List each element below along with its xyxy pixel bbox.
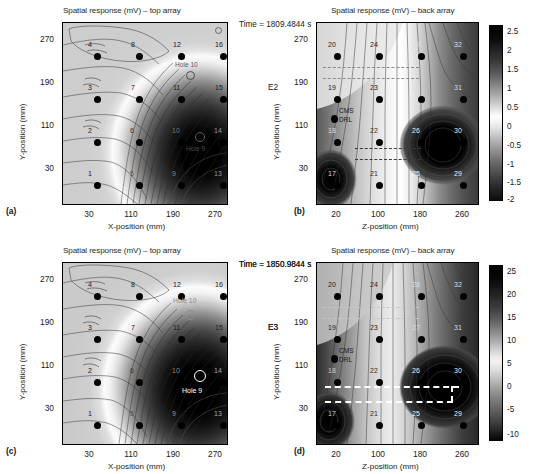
sensor-dot (376, 336, 383, 343)
panel-a-xaxis-label: X-position (mm) (108, 222, 165, 231)
hole-label: Hole 9 (186, 145, 205, 152)
sensor-dot (220, 336, 227, 343)
sensor-number: 31 (454, 84, 462, 91)
sensor-number: 30 (454, 127, 462, 134)
panel-d-letter: (d) (294, 446, 305, 456)
sensor-dot (220, 182, 227, 189)
panel-b-letter: (b) (294, 206, 305, 216)
dashed-marker-lower (355, 148, 421, 149)
sensor-number: 11 (173, 84, 180, 91)
sensor-number: 20 (328, 281, 336, 288)
sensor-number: 20 (328, 41, 336, 48)
sensor-dot (178, 379, 185, 386)
sensor-dot (334, 53, 341, 60)
sensor-dot (136, 293, 143, 300)
sensor-dot-extra (331, 355, 338, 363)
colorbar-d-tick: 20 (507, 290, 516, 299)
colorbar-b-tick: 2 (507, 46, 512, 55)
panel-d-event-label: E3 (268, 323, 278, 332)
sensor-dot (418, 182, 425, 189)
sensor-number: 19 (328, 84, 336, 91)
sensor-number: 18 (328, 127, 336, 134)
dashed-marker-white-top (325, 386, 459, 388)
sensor-dot (376, 139, 383, 146)
sensor-number: 14 (214, 127, 222, 134)
sensor-number: 14 (214, 367, 222, 374)
colorbar-b-tick: -2 (507, 195, 514, 204)
sensor-number: 29 (454, 170, 462, 177)
sensor-number: 17 (328, 410, 336, 417)
sensor-number: 6 (130, 127, 134, 134)
sensor-dot (418, 293, 425, 300)
hole-marker (186, 71, 195, 80)
panel-a-yaxis-label: Y-position (mm) (18, 104, 27, 160)
sensor-dot (418, 53, 425, 60)
sensor-number: 2 (88, 127, 92, 134)
sensor-number: 8 (131, 41, 135, 48)
sensor-dot (460, 182, 467, 189)
sensor-number: 13 (214, 410, 222, 417)
colorbar-b-tick: 2.5 (507, 27, 518, 36)
panel-c-xtick: 270 (204, 449, 226, 459)
panel-b-xtick: 100 (367, 209, 389, 219)
sensor-number: 18 (328, 367, 336, 374)
sensor-dot (460, 379, 467, 386)
sensor-number: 3 (88, 84, 92, 91)
sensor-number: 24 (370, 41, 378, 48)
sensor-number: 11 (173, 324, 180, 331)
colorbar-d-tick: -10 (507, 430, 519, 439)
sensor-dot (418, 336, 425, 343)
panel-a-ytick: 190 (22, 77, 54, 87)
sensor-number: 23 (370, 84, 378, 91)
sensor-number: 32 (454, 281, 462, 288)
sensor-number: 1 (88, 170, 92, 177)
panel-d-xtick: 100 (367, 449, 389, 459)
panel-b-ytick: 190 (276, 77, 308, 87)
cms-label: CMS (339, 347, 354, 354)
sensor-dot (178, 96, 185, 103)
dashed-marker-upper (323, 307, 419, 308)
sensor-dot (460, 53, 467, 60)
sensor-number: 3 (88, 324, 92, 331)
panel-b-title: Spatial response (mV) – back array (331, 6, 454, 15)
hole-label: Hole 10 (173, 297, 196, 304)
panel-a-title: Spatial response (mV) – top array (63, 6, 181, 15)
panel-d-xtick: 20 (325, 449, 347, 459)
sensor-dot (334, 293, 341, 300)
sensor-dot (418, 96, 425, 103)
sensor-number: 26 (412, 127, 420, 134)
sensor-number: 19 (328, 324, 336, 331)
colorbar-b-tick: -1 (507, 160, 514, 169)
panel-d-title: Spatial response (mV) – back array (331, 246, 454, 255)
panel-d-plot-area: 17 18 19 20 21 22 23 24 25 26 27 28 29 3… (316, 262, 479, 445)
panel-a-xtick: 270 (204, 209, 226, 219)
panel-c-xaxis-label: X-position (mm) (108, 462, 165, 471)
sensor-dot (376, 293, 383, 300)
sensor-number: 4 (88, 41, 92, 48)
sensor-number: 1 (88, 410, 92, 417)
sensor-dot (418, 139, 425, 146)
sensor-number: 27 (412, 84, 420, 91)
panel-c-plot-area: 1 2 3 4 5 6 7 8 9 10 11 12 13 14 15 16 H… (62, 262, 228, 445)
sensor-number: 4 (88, 281, 92, 288)
panel-a-xtick: 110 (120, 209, 142, 219)
panel-d-time-annotation: Time = 1850.9844 s (239, 260, 311, 269)
panel-b-colorbar (489, 25, 503, 201)
sensor-dot (376, 96, 383, 103)
sensor-dot-extra (331, 115, 338, 123)
sensor-dot (220, 379, 227, 386)
panel-d-xtick: 260 (451, 449, 473, 459)
sensor-number: 10 (172, 127, 180, 134)
hole-marker (185, 310, 195, 320)
sensor-number: 10 (172, 367, 180, 374)
panel-a-time-annotation: Time = 1809.4844 s (239, 20, 311, 29)
panel-c-xtick: 110 (120, 449, 142, 459)
panel-c-ytick: 270 (22, 274, 54, 284)
sensor-dot (94, 182, 101, 189)
panel-b-plot-area: 17 18 19 20 21 22 23 24 25 26 27 28 29 3… (316, 22, 479, 205)
sensor-number: 13 (214, 170, 222, 177)
sensor-dot (334, 139, 341, 146)
sensor-number: 15 (215, 324, 223, 331)
sensor-dot (460, 422, 467, 429)
sensor-number: 8 (131, 281, 135, 288)
